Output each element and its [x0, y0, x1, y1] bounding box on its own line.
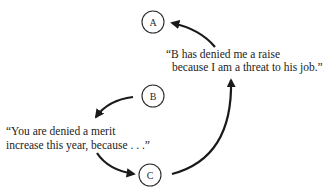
arrow-b-to-message [96, 97, 133, 117]
node-a-label: A [149, 17, 157, 28]
quote-a-perception: “B has denied me a raise because I am a … [166, 48, 323, 74]
quote-b-line1: “You are denied a merit [6, 125, 116, 137]
quote-a-line1: “B has denied me a raise [166, 48, 280, 60]
quote-b-message: “You are denied a merit increase this ye… [6, 125, 150, 152]
node-b-label: B [150, 91, 157, 102]
quote-b-line2: increase this year, because . . .” [6, 139, 150, 152]
node-a: A [142, 11, 164, 33]
arrow-c-to-perception [172, 80, 231, 174]
node-c-label: C [147, 170, 154, 181]
quote-a-line2: because I am a threat to his job.” [172, 61, 323, 74]
arrow-perception-to-a [172, 23, 215, 47]
arrow-message-to-c [97, 153, 134, 174]
node-b: B [142, 85, 164, 107]
node-c: C [139, 164, 161, 186]
communication-diagram: A B C “B has denied me a raise because I… [0, 0, 331, 194]
